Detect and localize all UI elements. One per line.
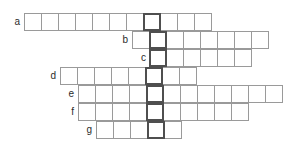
- letter-cell-row-b-7[interactable]: [234, 31, 252, 49]
- key-cell-row-c[interactable]: [149, 49, 167, 67]
- key-cell-row-a[interactable]: [143, 13, 161, 31]
- letter-cell-row-e-7[interactable]: [180, 85, 198, 103]
- letter-cell-row-c-2[interactable]: [166, 49, 184, 67]
- letter-cell-row-e-12[interactable]: [265, 85, 283, 103]
- letter-cell-row-d-3[interactable]: [94, 67, 112, 85]
- crossword-puzzle-grid: abcdefg: [0, 0, 303, 149]
- letter-cell-row-a-1[interactable]: [24, 13, 42, 31]
- letter-cell-row-f-8[interactable]: [197, 103, 215, 121]
- letter-cell-row-g-1[interactable]: [96, 121, 114, 139]
- letter-cell-row-d-5[interactable]: [128, 67, 146, 85]
- row-label-f: f: [60, 107, 74, 117]
- puzzle-row-cells: [132, 31, 269, 49]
- puzzle-row-a: [24, 13, 212, 31]
- letter-cell-row-e-1[interactable]: [78, 85, 96, 103]
- letter-cell-row-g-2[interactable]: [113, 121, 131, 139]
- letter-cell-row-b-4[interactable]: [183, 31, 201, 49]
- puzzle-row-d: [60, 67, 197, 85]
- letter-cell-row-a-11[interactable]: [194, 13, 212, 31]
- letter-cell-row-a-6[interactable]: [109, 13, 127, 31]
- puzzle-row-c: [150, 49, 252, 67]
- letter-cell-row-d-4[interactable]: [111, 67, 129, 85]
- key-cell-row-d[interactable]: [145, 67, 163, 85]
- puzzle-row-cells: [150, 49, 252, 67]
- letter-cell-row-a-5[interactable]: [92, 13, 110, 31]
- row-label-c: c: [132, 53, 146, 63]
- letter-cell-row-e-6[interactable]: [163, 85, 181, 103]
- letter-cell-row-d-8[interactable]: [179, 67, 197, 85]
- key-cell-row-f[interactable]: [146, 103, 164, 121]
- row-label-e: e: [60, 89, 74, 99]
- puzzle-row-b: [132, 31, 269, 49]
- row-label-g: g: [78, 125, 92, 135]
- puzzle-row-g: [96, 121, 182, 139]
- row-label-a: a: [6, 17, 20, 27]
- puzzle-row-e: [78, 85, 283, 103]
- row-label-d: d: [42, 71, 56, 81]
- letter-cell-row-c-6[interactable]: [234, 49, 252, 67]
- letter-cell-row-e-10[interactable]: [231, 85, 249, 103]
- puzzle-row-f: [78, 103, 249, 121]
- puzzle-row-cells: [78, 103, 249, 121]
- letter-cell-row-c-5[interactable]: [217, 49, 235, 67]
- letter-cell-row-a-10[interactable]: [177, 13, 195, 31]
- puzzle-row-cells: [24, 13, 212, 31]
- letter-cell-row-f-7[interactable]: [180, 103, 198, 121]
- letter-cell-row-e-11[interactable]: [248, 85, 266, 103]
- letter-cell-row-c-4[interactable]: [200, 49, 218, 67]
- letter-cell-row-d-1[interactable]: [60, 67, 78, 85]
- letter-cell-row-f-1[interactable]: [78, 103, 96, 121]
- letter-cell-row-a-7[interactable]: [126, 13, 144, 31]
- letter-cell-row-e-2[interactable]: [95, 85, 113, 103]
- puzzle-row-cells: [96, 121, 182, 139]
- letter-cell-row-g-3[interactable]: [130, 121, 148, 139]
- letter-cell-row-b-8[interactable]: [251, 31, 269, 49]
- letter-cell-row-a-4[interactable]: [75, 13, 93, 31]
- letter-cell-row-b-1[interactable]: [132, 31, 150, 49]
- letter-cell-row-b-3[interactable]: [166, 31, 184, 49]
- letter-cell-row-f-4[interactable]: [129, 103, 147, 121]
- letter-cell-row-e-8[interactable]: [197, 85, 215, 103]
- puzzle-row-cells: [60, 67, 197, 85]
- letter-cell-row-e-4[interactable]: [129, 85, 147, 103]
- key-cell-row-b[interactable]: [149, 31, 167, 49]
- letter-cell-row-a-3[interactable]: [58, 13, 76, 31]
- letter-cell-row-d-7[interactable]: [162, 67, 180, 85]
- letter-cell-row-f-2[interactable]: [95, 103, 113, 121]
- letter-cell-row-b-6[interactable]: [217, 31, 235, 49]
- letter-cell-row-a-2[interactable]: [41, 13, 59, 31]
- letter-cell-row-a-9[interactable]: [160, 13, 178, 31]
- letter-cell-row-e-9[interactable]: [214, 85, 232, 103]
- letter-cell-row-f-3[interactable]: [112, 103, 130, 121]
- letter-cell-row-f-10[interactable]: [231, 103, 249, 121]
- letter-cell-row-c-3[interactable]: [183, 49, 201, 67]
- letter-cell-row-g-5[interactable]: [164, 121, 182, 139]
- letter-cell-row-e-3[interactable]: [112, 85, 130, 103]
- key-cell-row-e[interactable]: [146, 85, 164, 103]
- letter-cell-row-d-2[interactable]: [77, 67, 95, 85]
- letter-cell-row-f-6[interactable]: [163, 103, 181, 121]
- key-cell-row-g[interactable]: [147, 121, 165, 139]
- letter-cell-row-b-5[interactable]: [200, 31, 218, 49]
- letter-cell-row-f-9[interactable]: [214, 103, 232, 121]
- row-label-b: b: [114, 35, 128, 45]
- puzzle-row-cells: [78, 85, 283, 103]
